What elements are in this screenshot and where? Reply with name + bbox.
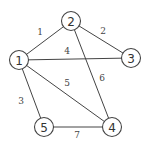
edge-2-4: [71, 21, 112, 127]
node-4: 4: [103, 118, 122, 137]
edge-weight-5-4: 7: [74, 130, 80, 140]
edge-1-4: [19, 60, 112, 127]
edge-1-3: [19, 58, 131, 60]
edge-weight-2-4: 6: [99, 73, 105, 83]
node-label: 1: [15, 54, 23, 68]
edge-weight-1-3: 4: [64, 46, 70, 56]
edges-layer: [19, 21, 131, 127]
edge-1-5: [19, 60, 44, 127]
edge-weight-2-3: 2: [100, 26, 106, 36]
weighted-graph: 1234567 12345: [0, 0, 151, 150]
node-label: 4: [108, 121, 116, 135]
node-label: 2: [67, 15, 75, 29]
edge-weight-1-4: 5: [64, 78, 70, 88]
node-2: 2: [62, 12, 81, 31]
edge-labels-layer: 1234567: [18, 26, 106, 140]
node-5: 5: [35, 118, 54, 137]
node-label: 3: [127, 52, 135, 66]
node-label: 5: [40, 121, 48, 135]
node-3: 3: [122, 49, 141, 68]
node-1: 1: [10, 51, 29, 70]
edge-weight-1-5: 3: [18, 96, 24, 106]
edge-weight-1-2: 1: [37, 27, 43, 37]
